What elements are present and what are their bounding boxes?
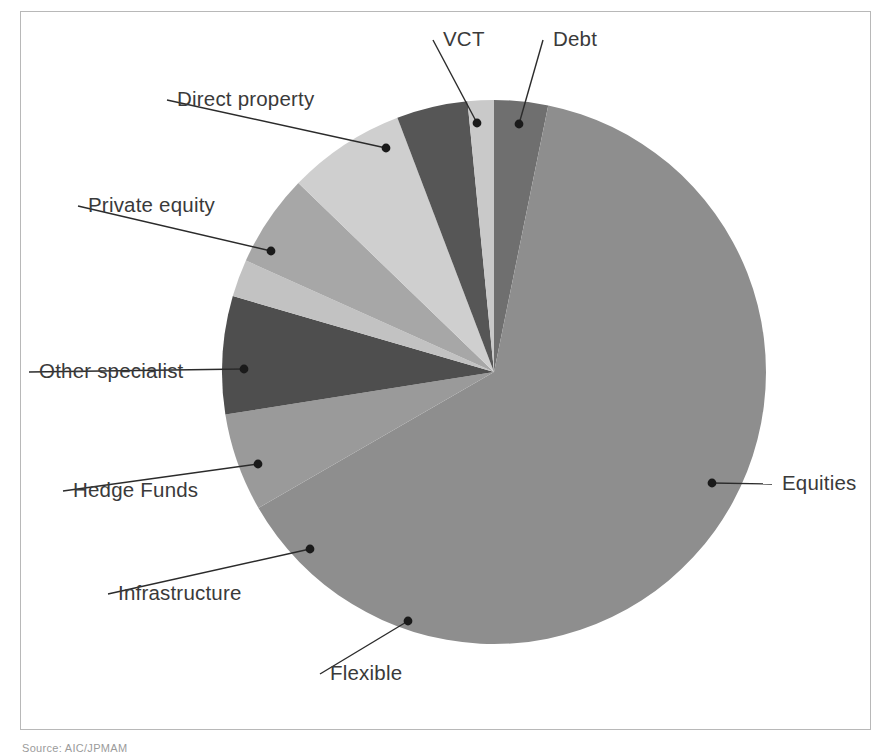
slice-label-hedge-funds: Hedge Funds bbox=[73, 478, 198, 501]
leader-dot-other-specialist bbox=[240, 365, 249, 374]
slice-label-other-specialist: Other specialist bbox=[39, 359, 184, 382]
slice-label-direct-property: Direct property bbox=[177, 87, 315, 110]
slice-label-equities: Equities bbox=[782, 471, 857, 494]
slice-label-private-equity: Private equity bbox=[88, 193, 216, 216]
slice-label-flexible: Flexible bbox=[330, 661, 402, 684]
leader-dot-equities bbox=[708, 479, 717, 488]
slice-label-infrastructure: Infrastructure bbox=[118, 581, 242, 604]
pie-chart-canvas: DebtEquitiesFlexibleInfrastructureHedge … bbox=[0, 0, 893, 754]
pie-slice-group bbox=[222, 100, 766, 644]
leader-dot-hedge-funds bbox=[254, 460, 263, 469]
pie-chart-figure: DebtEquitiesFlexibleInfrastructureHedge … bbox=[0, 0, 893, 754]
leader-dot-direct-property bbox=[382, 144, 391, 153]
figure-caption: Source: AIC/JPMAM bbox=[22, 742, 127, 754]
leader-dot-debt bbox=[515, 120, 524, 129]
slice-label-debt: Debt bbox=[553, 27, 597, 50]
leader-dot-vct bbox=[473, 119, 482, 128]
slice-label-vct: VCT bbox=[443, 27, 485, 50]
leader-line-equities bbox=[712, 483, 772, 484]
leader-dot-flexible bbox=[404, 617, 413, 626]
leader-dot-private-equity bbox=[267, 247, 276, 256]
leader-dot-infrastructure bbox=[306, 545, 315, 554]
